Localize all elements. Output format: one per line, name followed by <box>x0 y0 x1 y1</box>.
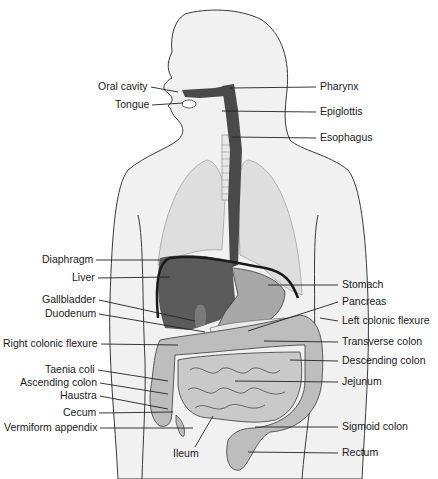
label-rectum: Rectum <box>342 446 378 458</box>
label-left-colonic-flexure: Left colonic flexure <box>342 314 430 326</box>
label-oral-cavity: Oral cavity <box>98 80 148 92</box>
label-transverse-colon: Transverse colon <box>342 335 422 347</box>
label-cecum: Cecum <box>63 406 96 418</box>
label-gallbladder: Gallbladder <box>42 293 96 305</box>
label-descending-colon: Descending colon <box>342 354 425 366</box>
label-liver: Liver <box>72 271 95 283</box>
label-tongue: Tongue <box>115 98 149 110</box>
label-haustra: Haustra <box>60 389 97 401</box>
label-jejunum: Jejunum <box>342 375 382 387</box>
label-pancreas: Pancreas <box>342 295 386 307</box>
label-sigmoid-colon: Sigmoid colon <box>342 420 408 432</box>
label-ascending-colon: Ascending colon <box>20 376 97 388</box>
label-ileum: Ileum <box>173 447 199 459</box>
label-esophagus: Esophagus <box>320 131 373 143</box>
label-duodenum: Duodenum <box>45 307 96 319</box>
label-vermiform-appendix: Vermiform appendix <box>4 421 97 433</box>
label-stomach: Stomach <box>342 278 383 290</box>
label-right-colonic-flexure: Right colonic flexure <box>3 337 98 349</box>
gallbladder <box>195 304 206 328</box>
label-taenia-coli: Taenia coli <box>45 363 95 375</box>
label-pharynx: Pharynx <box>320 80 359 92</box>
label-diaphragm: Diaphragm <box>42 253 93 265</box>
small-intestine <box>178 352 302 422</box>
tongue <box>182 100 196 108</box>
label-epiglottis: Epiglottis <box>320 105 363 117</box>
